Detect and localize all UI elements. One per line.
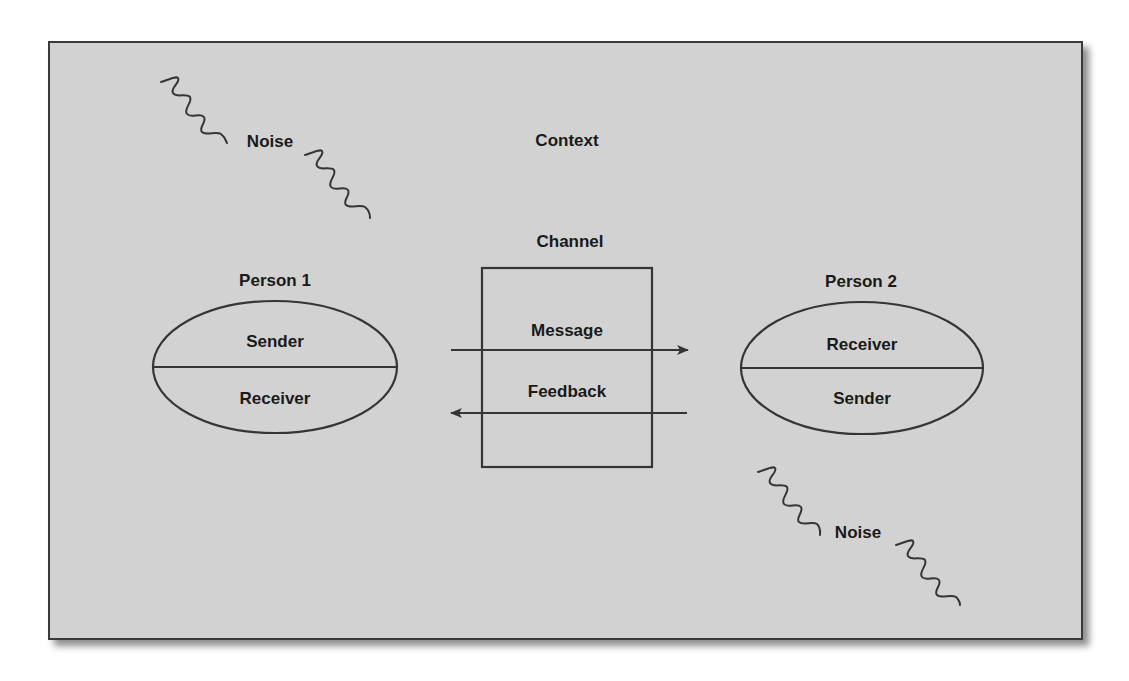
channel-label: Channel: [536, 233, 603, 250]
diagram-canvas: [0, 0, 1129, 681]
noise-squiggle-icon: [305, 150, 370, 218]
noise-label-bottom: Noise: [835, 524, 881, 541]
person2-node: [741, 302, 983, 434]
noise-label-top: Noise: [247, 133, 293, 150]
message-label: Message: [531, 322, 603, 339]
noise-squiggle-icon: [758, 467, 820, 535]
noise-squiggle-icon: [896, 540, 960, 605]
noise-squiggle-icon: [161, 77, 227, 143]
channel-box: [482, 268, 652, 467]
person1-node: [153, 301, 397, 433]
person2-title: Person 2: [825, 273, 897, 290]
person1-top-role: Sender: [246, 333, 304, 350]
person1-title: Person 1: [239, 272, 311, 289]
context-label: Context: [535, 132, 598, 149]
person2-top-role: Receiver: [827, 336, 898, 353]
person2-bottom-role: Sender: [833, 390, 891, 407]
person1-bottom-role: Receiver: [240, 390, 311, 407]
feedback-label: Feedback: [528, 383, 606, 400]
